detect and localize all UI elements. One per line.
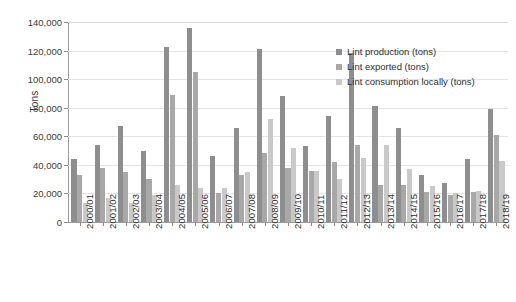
bar <box>424 192 429 222</box>
bar-group <box>488 22 504 222</box>
bar <box>77 175 82 222</box>
x-tick-label: 2004/05 <box>176 194 187 229</box>
x-tick-label: 2011/12 <box>338 195 349 229</box>
bar <box>419 175 424 222</box>
bar <box>146 179 151 222</box>
y-tick-label: 0 <box>57 217 62 228</box>
bar <box>309 171 314 222</box>
bar-group <box>71 22 87 222</box>
x-tick-mark <box>427 222 428 226</box>
bar-group <box>234 22 250 222</box>
bar <box>448 195 453 222</box>
bar <box>164 47 169 222</box>
x-tick-label: 2014/15 <box>408 194 419 229</box>
y-tick-mark <box>64 222 68 223</box>
x-tick-mark <box>242 222 243 226</box>
bar-group <box>257 22 273 222</box>
x-tick-mark <box>496 222 497 226</box>
bar <box>285 168 290 222</box>
bar <box>372 106 377 222</box>
bar <box>355 145 360 222</box>
bar-group <box>95 22 111 222</box>
bar <box>396 128 401 222</box>
x-tick-mark <box>80 222 81 226</box>
bar <box>234 128 239 222</box>
bar <box>378 185 383 222</box>
x-tick-label: 2012/13 <box>361 194 372 229</box>
bar <box>95 145 100 222</box>
bar <box>326 116 331 222</box>
bar <box>494 135 499 222</box>
legend-label: Lint consumption locally (tons) <box>347 76 475 87</box>
x-tick-label: 2009/10 <box>292 194 303 229</box>
bar <box>193 72 198 222</box>
bar <box>262 153 267 222</box>
y-tick-label: 20,000 <box>33 188 62 199</box>
bar-group <box>280 22 296 222</box>
bar <box>488 109 493 222</box>
bar <box>141 151 146 222</box>
bar <box>71 159 76 222</box>
x-tick-label: 2006/07 <box>223 194 234 229</box>
x-tick-mark <box>219 222 220 226</box>
x-tick-mark <box>172 222 173 226</box>
x-tick-mark <box>357 222 358 226</box>
x-tick-label: 2002/03 <box>130 194 141 229</box>
y-tick-label: 120,000 <box>28 45 62 56</box>
x-tick-mark <box>473 222 474 226</box>
bar <box>100 168 105 222</box>
x-tick-label: 2013/14 <box>385 194 396 229</box>
legend-swatch-icon <box>336 79 342 85</box>
bar <box>118 126 123 222</box>
legend-swatch-icon <box>336 49 342 55</box>
bar <box>332 162 337 222</box>
legend-item[interactable]: Lint exported (tons) <box>336 60 475 73</box>
bar-group <box>303 22 319 222</box>
legend-label: Lint exported (tons) <box>347 61 429 72</box>
x-tick-label: 2001/02 <box>107 194 118 229</box>
x-tick-mark <box>195 222 196 226</box>
bar <box>442 183 447 222</box>
x-tick-label: 2005/06 <box>199 194 210 229</box>
bar <box>471 192 476 222</box>
legend-item[interactable]: Lint production (tons) <box>336 45 475 58</box>
bar-group <box>141 22 157 222</box>
legend-swatch-icon <box>336 64 342 70</box>
x-tick-label: 2018/19 <box>500 194 511 229</box>
x-tick-mark <box>334 222 335 226</box>
bar <box>239 175 244 222</box>
x-tick-label: 2008/09 <box>269 194 280 229</box>
bar <box>257 49 262 222</box>
bar <box>465 159 470 222</box>
y-tick-label: 100,000 <box>28 74 62 85</box>
bar-group <box>187 22 203 222</box>
x-tick-label: 2017/18 <box>477 194 488 229</box>
bar <box>123 172 128 222</box>
x-tick-mark <box>103 222 104 226</box>
bar <box>210 156 215 222</box>
x-tick-label: 2016/17 <box>454 194 465 229</box>
x-tick-mark <box>265 222 266 226</box>
x-tick-mark <box>149 222 150 226</box>
y-tick-label: 140,000 <box>28 17 62 28</box>
bar <box>401 185 406 222</box>
x-tick-mark <box>126 222 127 226</box>
chart-legend: Lint production (tons)Lint exported (ton… <box>336 45 475 90</box>
bar <box>187 28 192 222</box>
y-tick-label: 80,000 <box>33 102 62 113</box>
y-tick-label: 40,000 <box>33 159 62 170</box>
legend-item[interactable]: Lint consumption locally (tons) <box>336 75 475 88</box>
legend-label: Lint production (tons) <box>347 46 436 57</box>
bar <box>170 95 175 222</box>
bar <box>280 96 285 222</box>
x-tick-label: 2003/04 <box>153 194 164 229</box>
x-tick-mark <box>311 222 312 226</box>
bar-group <box>118 22 134 222</box>
x-tick-mark <box>381 222 382 226</box>
bar <box>216 193 221 222</box>
x-tick-label: 2010/11 <box>315 195 326 229</box>
bar-group <box>210 22 226 222</box>
x-tick-label: 2000/01 <box>84 194 95 229</box>
x-tick-mark <box>404 222 405 226</box>
x-tick-mark <box>288 222 289 226</box>
